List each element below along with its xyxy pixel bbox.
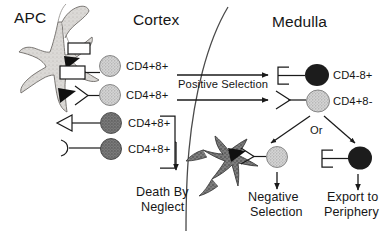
mhc-bracket-export — [322, 150, 349, 167]
mhc-bracket-medulla-cd8 — [278, 67, 305, 84]
tcr-chevron-negative-selection — [241, 148, 266, 164]
diagram-canvas: Cortex Medulla APC CD4+8+ CD4+8+ CD4+8+ … — [0, 0, 386, 231]
export-line1: Export to — [327, 191, 378, 205]
cd-label-cortex-4: CD4+8+ — [128, 143, 170, 155]
export-line2: Periphery — [324, 206, 379, 220]
tcr-triangle-filled-row3 — [58, 88, 76, 103]
region-title-medulla: Medulla — [272, 14, 327, 31]
cortex-medulla-boundary — [186, 7, 228, 231]
tcr-chevron-row3 — [75, 86, 101, 105]
apc-cortex-label: APC — [14, 10, 46, 27]
thymocyte-cortex-2 — [100, 85, 121, 106]
thymocyte-cd4-8-plus — [305, 64, 329, 86]
thymocyte-negative-selection — [267, 147, 288, 168]
cd-label-medulla-1: CD4-8+ — [333, 69, 372, 81]
thymocyte-cortex-3 — [101, 113, 122, 134]
tcr-open-chevron-row5 — [61, 140, 101, 156]
thymocyte-export — [348, 147, 372, 170]
cd-label-cortex-1: CD4+8+ — [126, 60, 168, 72]
branch-arrow-negative-selection — [271, 116, 310, 143]
negative-selection-line2: Selection — [250, 206, 303, 220]
cd-label-cortex-2: CD4+8+ — [126, 89, 168, 101]
cd-label-medulla-2: CD4+8- — [333, 95, 372, 107]
thymocyte-cortex-1 — [100, 56, 121, 77]
tcr-open-triangle-row4 — [57, 115, 101, 131]
death-by-neglect-line2: Neglect — [141, 201, 184, 215]
thymocyte-cortex-4 — [101, 139, 122, 160]
or-label: Or — [310, 124, 323, 136]
thymocyte-cd4-plus-8-minus — [307, 90, 330, 112]
death-by-neglect-line1: Death By — [136, 186, 189, 200]
positive-selection-label: Positive Selection — [178, 78, 268, 90]
region-title-cortex: Cortex — [133, 12, 179, 29]
tcr-chevron-medulla-cd4 — [276, 91, 306, 109]
apc-medulla-cell — [186, 136, 258, 196]
negative-selection-line1: Negative — [248, 191, 299, 205]
mhc-bracket-row1 — [68, 43, 90, 54]
branch-arrow-export — [324, 116, 355, 143]
cd-label-cortex-3: CD4+8+ — [128, 117, 170, 129]
